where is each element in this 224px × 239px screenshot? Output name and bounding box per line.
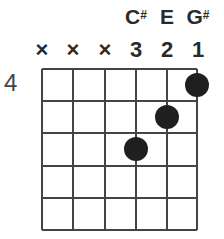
- finger-dot-string-1: [185, 73, 209, 97]
- string-lines: [42, 69, 197, 230]
- fretboard-grid: [0, 0, 224, 239]
- fret-lines: [42, 69, 197, 230]
- finger-dot-string-2: [155, 105, 179, 129]
- finger-dot-string-3: [124, 137, 148, 161]
